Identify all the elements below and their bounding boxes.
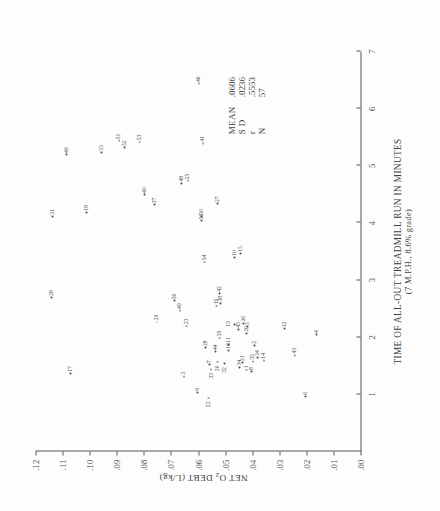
data-point-label: 24 bbox=[254, 350, 260, 356]
data-point-label: 49 bbox=[176, 303, 182, 309]
data-point-label: 44 bbox=[212, 344, 218, 350]
data-point-label: 41 bbox=[199, 135, 205, 141]
y-tick-label: .00 bbox=[355, 459, 365, 485]
data-point-label: 18 bbox=[83, 205, 89, 211]
data-point-marker bbox=[245, 369, 247, 371]
data-point-marker bbox=[187, 180, 189, 182]
y-tick-mark bbox=[306, 451, 307, 455]
data-point-marker bbox=[208, 364, 210, 366]
data-point-marker bbox=[185, 325, 187, 327]
x-tick-mark bbox=[356, 164, 360, 165]
y-tick-label: .01 bbox=[328, 459, 338, 485]
y-tick-mark bbox=[35, 451, 36, 455]
y-axis-title: NET O2 DEBT (L/kg) bbox=[83, 472, 323, 482]
statistics-key: r bbox=[246, 97, 256, 134]
data-point-marker bbox=[250, 370, 252, 372]
x-tick-mark bbox=[356, 50, 360, 51]
x-tick-label: 3 bbox=[366, 277, 376, 281]
data-point-label: 8 bbox=[248, 367, 254, 370]
data-point-label: 28 bbox=[48, 290, 54, 296]
y-tick-mark bbox=[360, 451, 361, 455]
data-point-label: 55 bbox=[98, 145, 104, 151]
data-point-marker bbox=[214, 350, 216, 352]
statistics-key: MEAN bbox=[226, 97, 236, 134]
statistics-row: r.5553 bbox=[246, 77, 256, 134]
statistics-value: .0236 bbox=[236, 77, 246, 97]
data-point-label: 10 bbox=[231, 250, 237, 256]
data-point-marker bbox=[283, 328, 285, 330]
figure-page: 1234567 .00.01.02.03.04.05.06.07.08.09.1… bbox=[0, 0, 440, 511]
data-point-label: 15 bbox=[237, 246, 243, 252]
data-point-marker bbox=[138, 141, 140, 143]
data-point-marker bbox=[207, 397, 209, 399]
data-point-label: 30 bbox=[214, 365, 220, 371]
data-point-label: 14 bbox=[260, 353, 266, 359]
data-point-marker bbox=[252, 360, 254, 362]
x-tick-label: 2 bbox=[366, 334, 376, 338]
data-point-label: 13 bbox=[225, 321, 231, 327]
data-point-marker bbox=[69, 372, 71, 374]
data-point-label: 37 bbox=[151, 197, 157, 203]
data-point-label: 28 bbox=[202, 340, 208, 346]
statistics-value: .5553 bbox=[246, 77, 256, 97]
data-point-marker bbox=[123, 146, 125, 148]
x-tick-label: 4 bbox=[366, 220, 376, 224]
data-point-marker bbox=[218, 337, 220, 339]
data-point-marker bbox=[196, 391, 198, 393]
data-point-label: 3 bbox=[180, 371, 186, 374]
y-tick-mark bbox=[252, 451, 253, 455]
y-axis-title-post: DEBT (L/kg) bbox=[159, 472, 215, 482]
data-point-marker bbox=[198, 82, 200, 84]
x-tick-mark bbox=[356, 393, 360, 394]
data-point-marker bbox=[239, 252, 241, 254]
y-tick-mark bbox=[143, 451, 144, 455]
data-point-label: 6 bbox=[302, 391, 308, 394]
y-tick-mark bbox=[198, 451, 199, 455]
data-point-marker bbox=[253, 344, 255, 346]
y-tick-mark bbox=[225, 451, 226, 455]
data-point-label: 53 bbox=[136, 134, 142, 140]
y-axis-title-pre: NET O bbox=[219, 472, 247, 482]
statistics-value: 57 bbox=[256, 77, 266, 97]
data-point-marker bbox=[219, 302, 221, 304]
data-point-marker bbox=[304, 395, 306, 397]
data-point-label: 46 bbox=[195, 76, 201, 82]
data-point-label: 52 bbox=[121, 140, 127, 146]
data-point-marker bbox=[215, 305, 217, 307]
x-tick-label: 7 bbox=[366, 49, 376, 53]
data-point-label: 7 bbox=[206, 360, 212, 363]
data-point-marker bbox=[156, 321, 158, 323]
y-axis-title-subscript: 2 bbox=[215, 471, 219, 479]
data-point-marker bbox=[315, 333, 317, 335]
data-point-marker bbox=[210, 368, 212, 370]
data-point-label: 29 bbox=[153, 314, 159, 320]
data-point-marker bbox=[294, 354, 296, 356]
statistics-table: MEAN.0606S D.0236r.5553N57 bbox=[226, 77, 266, 134]
data-point-marker bbox=[233, 324, 235, 326]
x-axis-title-line1: TIME OF ALL-OUT TREADMILL RUN IN MINUTES bbox=[392, 138, 402, 364]
x-tick-mark bbox=[356, 107, 360, 108]
x-axis-line bbox=[360, 51, 361, 451]
x-tick-label: 6 bbox=[366, 106, 376, 110]
data-point-marker bbox=[143, 193, 145, 195]
statistics-value: .0606 bbox=[226, 77, 236, 97]
x-axis-title-line2: (7 M.P.H., 8.6% grade) bbox=[403, 51, 412, 451]
data-point-label: 51 bbox=[115, 133, 121, 139]
scatter-plot: 1234567 .00.01.02.03.04.05.06.07.08.09.1… bbox=[0, 0, 440, 511]
data-point-marker bbox=[245, 332, 247, 334]
y-tick-mark bbox=[279, 451, 280, 455]
data-point-label: 39 bbox=[216, 330, 222, 336]
data-point-marker bbox=[202, 142, 204, 144]
x-tick-mark bbox=[356, 336, 360, 337]
data-point-marker bbox=[51, 215, 53, 217]
data-point-marker bbox=[204, 346, 206, 348]
data-point-label: 4 bbox=[313, 330, 319, 333]
data-point-label: 42 bbox=[216, 286, 222, 292]
data-point-label: 17 bbox=[67, 366, 73, 372]
statistics-key: S D bbox=[236, 97, 246, 134]
data-point-label: 45 bbox=[235, 322, 241, 328]
data-point-label: 54 bbox=[201, 254, 207, 260]
y-tick-label: .12 bbox=[30, 459, 40, 485]
data-point-marker bbox=[216, 361, 218, 363]
data-point-label: 46 bbox=[63, 147, 69, 153]
